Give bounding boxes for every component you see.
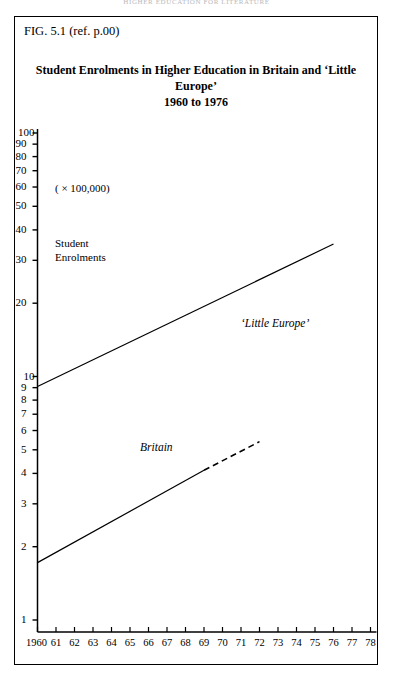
x-tick-label: 67 [158,637,176,648]
y-tick-label: 5 [5,443,27,455]
x-tick-label: 64 [103,637,121,648]
x-tick-label: 62 [66,637,84,648]
chart-plot-area [0,0,393,678]
x-tick-label: 76 [325,637,343,648]
x-tick-label: 66 [140,637,158,648]
x-tick-label: 70 [214,637,232,648]
y-tick-label: 40 [5,223,27,235]
x-tick-label: 61 [47,637,65,648]
y-tick-label: 20 [5,296,27,308]
y-tick-label: 3 [5,497,27,509]
trend-line-extension-britain [204,442,260,471]
y-tick-label: 90 [5,137,27,149]
y-tick-label: 100 [5,126,35,138]
x-tick-label: 72 [251,637,269,648]
x-tick-label: 73 [269,637,287,648]
x-tick-label: 63 [84,637,102,648]
x-tick-label: 78 [362,637,380,648]
trend-line-little-europe [38,244,334,386]
x-tick-label: 77 [343,637,361,648]
y-tick-label: 4 [5,466,27,478]
x-tick-label: 75 [306,637,324,648]
y-tick-label: 9 [5,381,27,393]
y-tick-label: 80 [5,150,27,162]
y-tick-label: 8 [5,393,27,405]
trend-line-britain [38,470,205,562]
y-tick-label: 2 [5,540,27,552]
x-tick-label: 65 [121,637,139,648]
y-tick-label: 10 [5,370,35,382]
y-tick-label: 6 [5,424,27,436]
y-tick-label: 7 [5,407,27,419]
y-tick-label: 30 [5,253,27,265]
x-tick-label: 71 [232,637,250,648]
y-tick-label: 60 [5,180,27,192]
y-tick-label: 70 [5,164,27,176]
x-tick-label: 74 [288,637,306,648]
x-tick-label: 68 [177,637,195,648]
y-tick-label: 50 [5,199,27,211]
x-tick-label: 1960 [24,637,50,648]
x-tick-label: 69 [195,637,213,648]
y-tick-label: 1 [5,613,27,625]
